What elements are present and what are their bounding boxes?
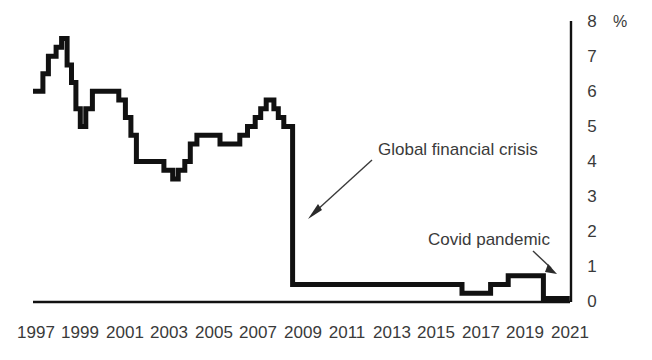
series-line-bank-rate xyxy=(33,39,570,299)
x-tick-label-2001: 2001 xyxy=(106,323,144,342)
x-tick-label-2017: 2017 xyxy=(462,323,500,342)
y-tick-label-6: 6 xyxy=(587,82,596,101)
y-tick-label-4: 4 xyxy=(587,152,596,171)
x-tick-label-2009: 2009 xyxy=(284,323,322,342)
annotation-label-covid: Covid pandemic xyxy=(428,230,550,249)
y-tick-label-0: 0 xyxy=(587,292,596,311)
series-group xyxy=(33,39,570,299)
chart-page: 8 7 6 5 4 3 2 1 0 % 1997 1999 2001 2003 … xyxy=(0,0,652,360)
annotation-covid-pandemic: Covid pandemic xyxy=(428,230,557,274)
annotation-label-gfc: Global financial crisis xyxy=(378,140,538,159)
x-tick-label-2019: 2019 xyxy=(506,323,544,342)
annotation-global-financial-crisis: Global financial crisis xyxy=(308,140,538,219)
x-tick-label-2015: 2015 xyxy=(417,323,455,342)
y-tick-labels: 8 7 6 5 4 3 2 1 0 xyxy=(587,12,596,311)
x-tick-labels: 1997 1999 2001 2003 2005 2007 2009 2011 … xyxy=(17,323,589,342)
x-tick-label-2007: 2007 xyxy=(239,323,277,342)
y-tick-label-3: 3 xyxy=(587,187,596,206)
annotation-arrow-head-gfc xyxy=(308,204,322,219)
x-tick-label-2011: 2011 xyxy=(329,323,366,342)
y-tick-label-1: 1 xyxy=(587,257,596,276)
y-axis-unit-label: % xyxy=(613,13,627,30)
y-tick-label-8: 8 xyxy=(587,12,596,31)
annotation-leader-line-gfc xyxy=(316,160,372,211)
x-tick-label-2021: 2021 xyxy=(551,323,589,342)
y-tick-label-7: 7 xyxy=(587,47,596,66)
y-tick-label-5: 5 xyxy=(587,117,596,136)
y-tick-label-2: 2 xyxy=(587,222,596,241)
x-tick-label-2003: 2003 xyxy=(150,323,188,342)
x-tick-label-2005: 2005 xyxy=(195,323,233,342)
x-tick-label-1999: 1999 xyxy=(61,323,99,342)
axes-group xyxy=(33,21,571,302)
x-tick-label-2013: 2013 xyxy=(373,323,411,342)
bank-rate-step-chart: 8 7 6 5 4 3 2 1 0 % 1997 1999 2001 2003 … xyxy=(0,0,652,360)
annotation-arrow-head-covid xyxy=(545,264,557,274)
x-tick-label-1997: 1997 xyxy=(17,323,55,342)
